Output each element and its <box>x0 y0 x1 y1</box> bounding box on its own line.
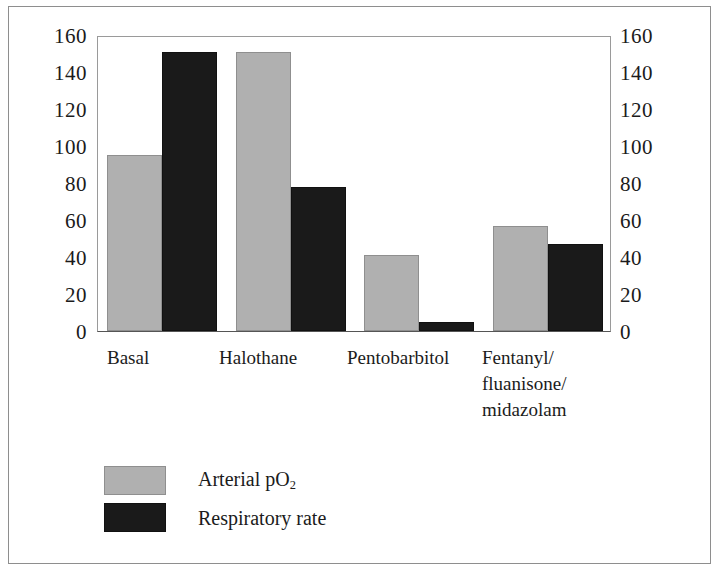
y-tick-label: 120 <box>620 100 686 121</box>
y-axis-right-labels: 160140120100806040200 <box>620 36 686 332</box>
y-tick-label: 60 <box>21 211 87 232</box>
y-tick-label: 160 <box>620 26 686 47</box>
legend-item-respiratory-rate: Respiratory rate <box>104 499 326 536</box>
bar-arterial-po2 <box>493 226 548 331</box>
legend-item-arterial-po2: Arterial pO2 <box>104 462 326 499</box>
chart-legend: Arterial pO2 Respiratory rate <box>104 462 326 536</box>
y-tick-label: 0 <box>21 322 87 343</box>
bar-respiratory-rate <box>291 187 346 331</box>
bar-arterial-po2 <box>364 255 419 331</box>
plot-area <box>97 36 611 332</box>
y-tick-label: 100 <box>21 137 87 158</box>
bars-layer <box>98 37 610 331</box>
y-tick-label: 20 <box>21 285 87 306</box>
y-tick-label: 0 <box>620 322 686 343</box>
legend-label-respiratory-rate: Respiratory rate <box>198 507 326 529</box>
y-tick-label: 40 <box>21 248 87 269</box>
figure-canvas: 160140120100806040200 160140120100806040… <box>0 0 720 572</box>
x-category-label: Basal <box>107 345 149 371</box>
y-tick-label: 20 <box>620 285 686 306</box>
y-tick-label: 160 <box>21 26 87 47</box>
y-tick-label: 80 <box>21 174 87 195</box>
y-tick-label: 120 <box>21 100 87 121</box>
x-axis-category-labels: BasalHalothanePentobarbitolFentanyl/ flu… <box>97 345 657 455</box>
y-tick-label: 140 <box>21 63 87 84</box>
y-tick-label: 100 <box>620 137 686 158</box>
legend-label-arterial-po2: Arterial pO2 <box>198 468 296 493</box>
y-tick-label: 60 <box>620 211 686 232</box>
x-category-label: Pentobarbitol <box>347 345 449 371</box>
legend-swatch-arterial-po2 <box>104 466 166 495</box>
bar-respiratory-rate <box>162 52 217 331</box>
y-tick-label: 80 <box>620 174 686 195</box>
bar-respiratory-rate <box>419 322 474 331</box>
y-tick-label: 40 <box>620 248 686 269</box>
bar-arterial-po2 <box>107 155 162 331</box>
x-category-label: Halothane <box>219 345 297 371</box>
bar-respiratory-rate <box>548 244 603 331</box>
legend-swatch-respiratory-rate <box>104 503 166 532</box>
bar-arterial-po2 <box>236 52 291 331</box>
y-axis-left-labels: 160140120100806040200 <box>21 36 87 332</box>
x-category-label: Fentanyl/ fluanisone/ midazolam <box>482 345 566 423</box>
y-tick-label: 140 <box>620 63 686 84</box>
